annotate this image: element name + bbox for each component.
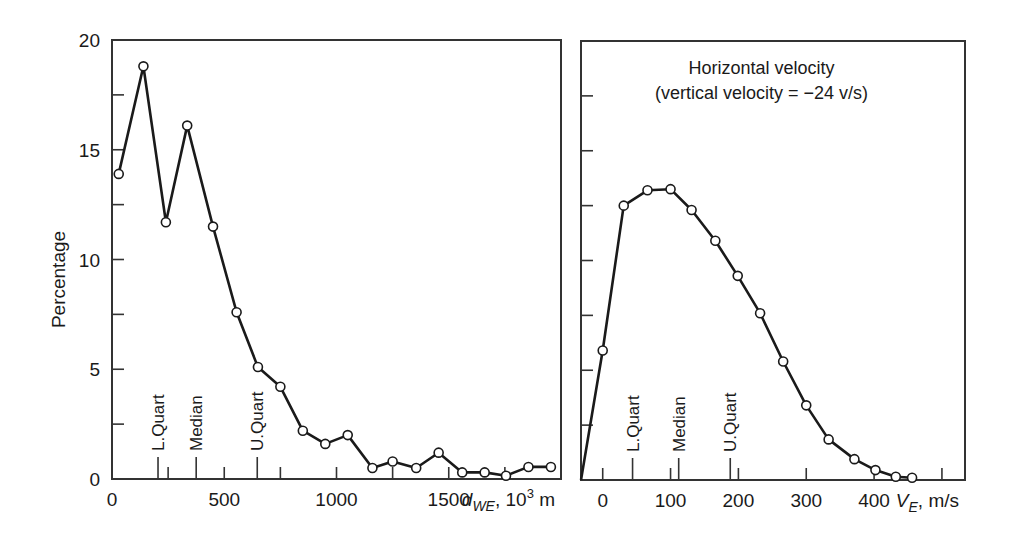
y-tick-label: 5 (89, 359, 100, 380)
x-tick-label: 0 (107, 489, 118, 510)
data-point (161, 218, 170, 227)
x-axis-label: dWE, 103 m (462, 486, 555, 514)
left-panel-distance-histogram: 05101520050010001500L.QuartMedianU.Quart… (48, 30, 561, 514)
quartile-label: Median (670, 396, 689, 452)
data-point (908, 473, 917, 482)
x-tick-label: 500 (208, 489, 240, 510)
data-point (824, 435, 833, 444)
data-point (598, 346, 607, 355)
quartile-label: Median (187, 395, 206, 451)
y-tick-label: 10 (79, 250, 100, 271)
data-point (501, 471, 510, 480)
data-point (232, 308, 241, 317)
data-point (209, 222, 218, 231)
plot-frame (112, 40, 561, 479)
data-point (802, 401, 811, 410)
x-label-rest: , m/s (918, 490, 959, 511)
data-point (756, 309, 765, 318)
x-label-sub: WE (472, 498, 495, 514)
quartile-label: L.Quart (624, 395, 643, 452)
x-axis-label: VE, m/s (896, 490, 959, 515)
chart-subtitle: (vertical velocity = −24 v/s) (655, 83, 868, 103)
data-point (480, 468, 489, 477)
data-point (183, 121, 192, 130)
data-point (643, 186, 652, 195)
data-point (114, 169, 123, 178)
x-label-sup: 3 (527, 486, 534, 501)
data-point (253, 363, 262, 372)
x-tick-label: 200 (723, 490, 755, 511)
data-point (343, 431, 352, 440)
data-point (368, 464, 377, 473)
data-point (276, 382, 285, 391)
y-tick-label: 15 (79, 140, 100, 161)
data-point (139, 62, 148, 71)
x-label-rest: , 10 (495, 489, 527, 510)
data-point (891, 472, 900, 481)
x-tick-label: 0 (597, 490, 608, 511)
data-point (298, 426, 307, 435)
quartile-label: U.Quart (721, 392, 740, 452)
y-axis-label: Percentage (48, 231, 69, 328)
x-tick-label: 100 (655, 490, 687, 511)
chart-title: Horizontal velocity (688, 58, 834, 78)
data-point (850, 455, 859, 464)
quartile-label: U.Quart (248, 391, 267, 451)
data-point (546, 462, 555, 471)
data-point (687, 206, 696, 215)
x-tick-label: 300 (790, 490, 822, 511)
x-tick-label: 400 (858, 490, 890, 511)
data-point (619, 201, 628, 210)
y-tick-label: 20 (79, 30, 100, 51)
data-point (434, 448, 443, 457)
data-point (711, 236, 720, 245)
data-point (524, 462, 533, 471)
data-point (458, 468, 467, 477)
data-point (388, 457, 397, 466)
y-tick-label: 0 (89, 469, 100, 490)
data-point (779, 357, 788, 366)
data-point (321, 439, 330, 448)
x-tick-label: 1000 (315, 489, 357, 510)
data-point (871, 466, 880, 475)
right-panel-horizontal-velocity: 0100200300400L.QuartMedianU.QuartVE, m/s… (581, 41, 965, 515)
chart-canvas: 05101520050010001500L.QuartMedianU.Quart… (0, 0, 1036, 552)
data-point (666, 185, 675, 194)
data-point (412, 464, 421, 473)
data-point (733, 271, 742, 280)
x-label-unit: m (534, 489, 555, 510)
figure: 05101520050010001500L.QuartMedianU.Quart… (0, 0, 1036, 552)
quartile-label: L.Quart (149, 394, 168, 451)
